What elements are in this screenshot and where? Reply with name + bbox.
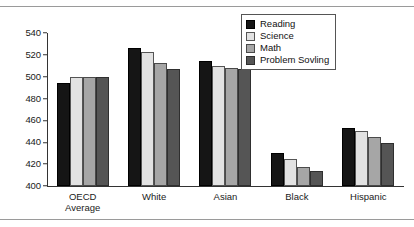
legend-color-swatch xyxy=(246,20,255,29)
y-axis-tick: 400 xyxy=(25,181,47,191)
legend-color-swatch xyxy=(246,44,255,53)
bar xyxy=(199,61,212,186)
x-axis-category-label: White xyxy=(142,191,166,202)
bar xyxy=(96,77,109,186)
x-axis-category-label: OECDAverage xyxy=(65,191,100,213)
bar xyxy=(297,167,310,186)
y-axis-tick-label: 400 xyxy=(25,181,41,191)
y-axis-tick-label: 440 xyxy=(25,138,41,148)
top-divider xyxy=(0,6,414,7)
y-axis-tick-label: 520 xyxy=(25,50,41,60)
x-axis-category-label-line: Hispanic xyxy=(350,191,386,202)
plot-area: 400420440460480500520540 OECDAverageWhit… xyxy=(47,33,404,186)
bar xyxy=(355,131,368,186)
bar xyxy=(342,128,355,186)
legend-color-swatch xyxy=(246,56,255,65)
bar-group: White xyxy=(118,33,189,186)
bar xyxy=(167,69,180,186)
bar xyxy=(128,48,141,186)
legend-item: Math xyxy=(246,42,329,54)
y-axis-tick: 420 xyxy=(25,159,47,169)
bar xyxy=(284,159,297,186)
bar xyxy=(271,153,284,186)
legend-item: Reading xyxy=(246,18,329,30)
bar xyxy=(57,83,70,186)
bar xyxy=(141,52,154,186)
bar xyxy=(381,143,394,186)
bar-chart-figure: 400420440460480500520540 OECDAverageWhit… xyxy=(0,0,414,227)
bar-group-bars xyxy=(333,33,404,186)
legend-item-label: Reading xyxy=(260,19,295,29)
legend-item-label: Math xyxy=(260,43,281,53)
y-axis-tick-label: 480 xyxy=(25,94,41,104)
legend-item-label: Problem Sovling xyxy=(260,55,329,65)
legend-item-label: Science xyxy=(260,31,294,41)
y-axis-tick: 460 xyxy=(25,116,47,126)
y-axis-tick-label: 540 xyxy=(25,28,41,38)
bar xyxy=(83,77,96,186)
chart-legend: ReadingScienceMathProblem Sovling xyxy=(241,14,336,70)
bar-group: OECDAverage xyxy=(47,33,118,186)
bar-group: Hispanic xyxy=(333,33,404,186)
bar-group-bars xyxy=(118,33,189,186)
x-axis-category-label: Hispanic xyxy=(350,191,386,202)
x-axis-category-label: Black xyxy=(285,191,308,202)
bar xyxy=(238,69,251,186)
x-axis-category-label-line: Black xyxy=(285,191,308,202)
legend-color-swatch xyxy=(246,32,255,41)
bar xyxy=(310,171,323,186)
y-axis-tick-label: 460 xyxy=(25,116,41,126)
x-axis-category-label: Asian xyxy=(214,191,238,202)
x-axis-category-label-line: Average xyxy=(65,202,100,213)
y-axis-tick-label: 500 xyxy=(25,72,41,82)
bar xyxy=(212,66,225,186)
y-axis-tick: 540 xyxy=(25,28,47,38)
bar xyxy=(368,137,381,186)
y-axis-tick: 520 xyxy=(25,50,47,60)
y-axis-tick-label: 420 xyxy=(25,159,41,169)
x-axis-category-label-line: White xyxy=(142,191,166,202)
legend-item: Problem Sovling xyxy=(246,54,329,66)
y-axis-tick: 500 xyxy=(25,72,47,82)
bar xyxy=(70,77,83,186)
legend-item: Science xyxy=(246,30,329,42)
x-axis-category-label-line: OECD xyxy=(65,191,100,202)
y-axis-tick: 480 xyxy=(25,94,47,104)
x-axis-category-label-line: Asian xyxy=(214,191,238,202)
bar-group-bars xyxy=(47,33,118,186)
bottom-divider xyxy=(0,219,414,220)
x-axis xyxy=(47,186,404,187)
bar xyxy=(225,68,238,186)
bar xyxy=(154,63,167,186)
y-axis-tick: 440 xyxy=(25,138,47,148)
